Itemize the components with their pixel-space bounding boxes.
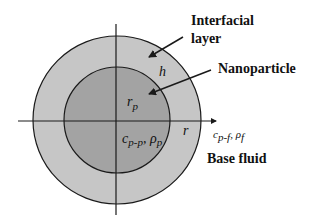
radial-axis-symbol: r (183, 123, 189, 138)
fluid-properties-symbol: cp-f, ρf (213, 128, 246, 143)
interfacial-layer-label: Interfacial (191, 13, 254, 28)
layer-thickness-symbol: h (159, 64, 166, 79)
base-fluid-label: Base fluid (207, 151, 267, 166)
nanoparticle-label: Nanoparticle (218, 61, 296, 76)
particle-properties-symbol: cp-p, ρp (122, 131, 163, 148)
nanoparticle-circle (64, 67, 170, 173)
diagram-canvas: Interfacial layer Nanoparticle Base flui… (0, 0, 323, 223)
interfacial-layer-label-line2: layer (191, 31, 221, 46)
